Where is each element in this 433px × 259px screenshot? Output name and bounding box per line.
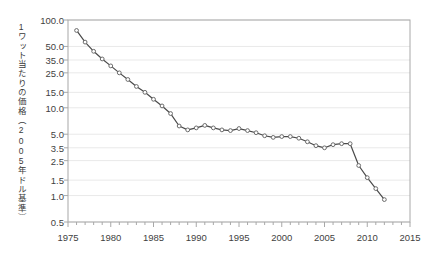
x-axis-ticks [68,222,410,227]
x-axis-tick-label: 1990 [186,232,207,243]
gridlines [68,20,410,222]
series-markers [75,29,387,202]
data-point-marker [177,124,181,128]
y-axis-title: 1ワット当たりの価格（2005年ドル基準） [6,22,26,234]
y-axis-tick-label: 35.0 [26,55,64,66]
data-point-marker [271,135,275,139]
x-axis-tick-label: 1980 [100,232,121,243]
data-point-marker [306,140,310,144]
data-point-marker [263,134,267,138]
data-point-marker [211,126,215,130]
y-axis-tick-label: 10.0 [26,102,64,113]
x-axis-tick-label: 2005 [314,232,335,243]
data-point-marker [323,146,327,150]
data-point-marker [143,90,147,94]
data-point-marker [220,128,224,132]
data-point-marker [297,136,301,140]
y-axis-tick-label: 25.0 [26,67,64,78]
y-axis-ticks [64,20,68,222]
data-point-marker [75,29,79,33]
data-point-marker [117,71,121,75]
y-axis-tick-label: 2.5 [26,155,64,166]
data-point-marker [374,187,378,191]
x-axis-tick-label: 1975 [57,232,78,243]
x-axis-tick-label: 2000 [271,232,292,243]
plot-frame [68,20,410,222]
y-axis-tick-label: 50.0 [26,41,64,52]
data-point-marker [152,97,156,101]
y-axis-tick-label: 5.0 [26,129,64,140]
x-axis-tick-label: 1995 [228,232,249,243]
x-axis-tick-label: 1985 [143,232,164,243]
data-point-marker [382,198,386,202]
data-point-marker [194,126,198,130]
y-axis-tick-label: 1.5 [26,175,64,186]
data-point-marker [237,127,241,131]
data-point-marker [254,131,258,135]
data-point-marker [109,64,113,68]
y-axis-tick-label: 15.0 [26,87,64,98]
data-point-marker [229,129,233,133]
data-point-marker [288,135,292,139]
data-point-marker [357,164,361,168]
y-axis-tick-labels: 100.050.035.025.015.010.05.03.52.51.51.0… [26,0,64,259]
data-point-marker [100,57,104,61]
x-axis-tick-label: 2010 [357,232,378,243]
plot-area [0,0,433,259]
y-axis-tick-label: 1.0 [26,190,64,201]
data-point-marker [83,40,87,44]
y-axis-tick-label: 0.5 [26,217,64,228]
x-axis-tick-label: 2015 [399,232,420,243]
data-point-marker [348,142,352,146]
data-point-marker [246,129,250,133]
data-point-marker [340,142,344,146]
data-point-marker [92,49,96,53]
data-point-marker [160,104,164,108]
solar-price-chart: 1ワット当たりの価格（2005年ドル基準） 100.050.035.025.01… [0,0,433,259]
data-point-marker [126,78,130,82]
data-point-marker [280,135,284,139]
data-point-marker [331,143,335,147]
data-point-marker [135,85,139,89]
data-point-marker [186,128,190,132]
data-point-marker [203,124,207,128]
data-point-marker [314,144,318,148]
y-axis-tick-label: 3.5 [26,142,64,153]
data-point-marker [365,176,369,180]
y-axis-tick-label: 100.0 [26,15,64,26]
data-point-marker [169,112,173,116]
series-line-price-per-watt [77,30,385,199]
